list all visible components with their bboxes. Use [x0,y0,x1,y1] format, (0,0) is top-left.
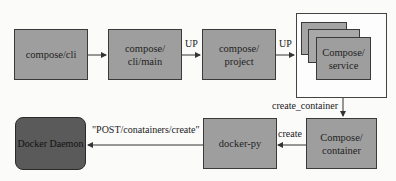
edge-label-create: create [278,128,302,139]
node-compose-cli: compose/cli [14,29,88,80]
node-compose-service: Compose/ service [316,37,371,80]
node-docker-py: docker-py [203,118,277,169]
node-docker-daemon: Docker Daemon [15,117,86,170]
node-docker-py-label: docker-py [219,137,261,150]
node-compose-project-label-2: project [224,55,253,68]
node-compose-project: compose/ project [202,29,276,80]
edge-label-create-container: create_container [272,100,338,111]
node-compose-cli-main-label-1: compose/ [125,42,165,55]
node-compose-service-label-2: service [329,59,359,72]
node-compose-cli-label: compose/cli [26,48,77,61]
node-compose-container: Compose/ container [306,118,377,169]
node-compose-cli-main: compose/ cli/main [108,29,182,80]
node-compose-cli-main-label-2: cli/main [128,55,162,68]
node-compose-project-label-1: compose/ [219,42,259,55]
edge-label-up-2: UP [279,38,292,49]
node-compose-container-label-2: container [322,144,361,157]
node-compose-service-label-1: Compose/ [322,46,365,59]
node-compose-container-label-1: Compose/ [320,131,363,144]
edge-label-up-1: UP [185,38,198,49]
edge-label-post-create: "POST/conatainers/create" [92,124,200,135]
node-docker-daemon-label: Docker Daemon [18,137,84,150]
